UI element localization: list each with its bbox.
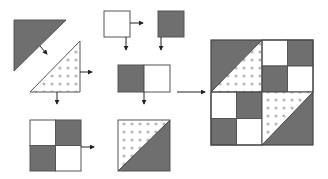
- quilt-assembly-diagram: [0, 0, 328, 179]
- arrow-dark-triangle-to-dotted: [40, 46, 47, 54]
- white-square-piece: [104, 11, 130, 37]
- two-patch-unit: [118, 65, 170, 92]
- half-square-triangle-unit: [118, 120, 170, 171]
- finished-block: [211, 40, 313, 145]
- four-patch-unit: [30, 120, 81, 171]
- dark-square-piece: [158, 11, 184, 37]
